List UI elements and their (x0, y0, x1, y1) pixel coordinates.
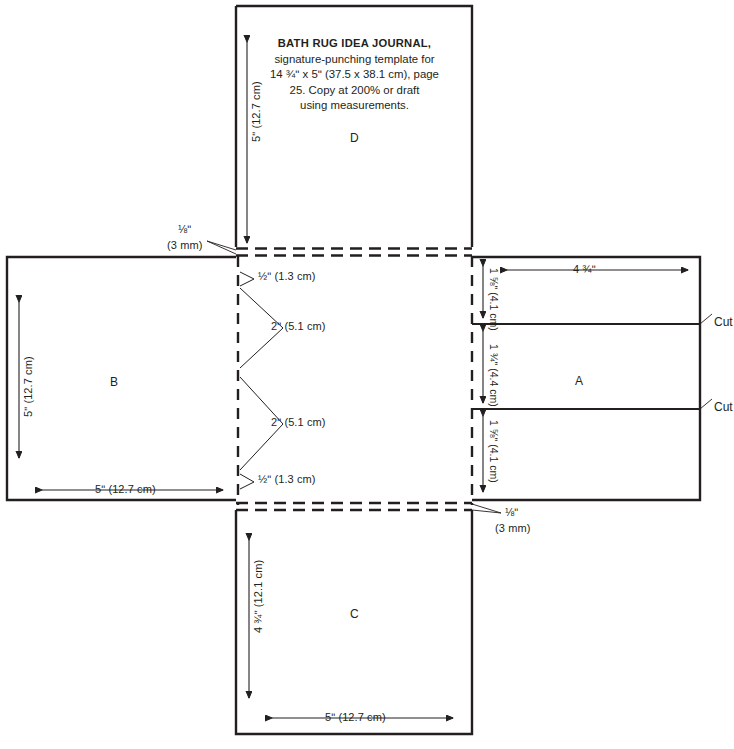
cut-leader-bottom (700, 399, 712, 409)
title-block: BATH RUG IDEA JOURNAL, signature-punchin… (252, 36, 457, 114)
panel-letter-b: B (110, 376, 118, 388)
dim-label-notch-bottom: ½ʺ (1.3 cm) (258, 474, 316, 485)
dim-label-panel-b-height: 5ʺ (12.7 cm) (23, 356, 34, 417)
callout-gap-bottom-line2: (3 mm) (495, 523, 530, 534)
zigzag-notch-bottom (240, 474, 254, 489)
dim-label-notch-top: ½ʺ (1.3 cm) (258, 271, 316, 282)
callout-gap-top-line1: ⅛ʺ (178, 224, 191, 235)
gap-callout-top-leaders (207, 241, 236, 254)
zigzag-leaders (240, 272, 283, 489)
dim-label-panel-a-seg-bottom: 1 ⅝ʺ (4.1 cm) (489, 420, 500, 483)
dim-label-panel-b-width: 5ʺ (12.7 cm) (95, 484, 156, 495)
panel-a-outline (472, 257, 700, 500)
panel-letter-c: C (350, 608, 359, 620)
callout-gap-bottom-line1: ⅛ʺ (505, 507, 518, 518)
dim-label-panel-d-height: 5ʺ (12.7 cm) (251, 81, 262, 142)
cut-label-bottom: Cut (714, 401, 733, 413)
dim-label-panel-a-width: 4 ¾ʺ (573, 264, 596, 275)
panel-letter-d: D (350, 132, 359, 144)
dim-label-panel-c-height: 4 ¾ʺ (12.1 cm) (253, 560, 264, 633)
title-line-5: using measurements. (252, 98, 457, 114)
dim-label-segment-upper: 2ʺ (5.1 cm) (271, 321, 326, 332)
cut-leader-top (700, 314, 712, 324)
title-line-3: 14 ¾ʺ x 5ʺ (37.5 x 38.1 cm), page (252, 67, 457, 83)
zigzag-notch-top (240, 272, 254, 286)
title-line-4: 25. Copy at 200% or draft (252, 83, 457, 99)
cut-label-top: Cut (714, 316, 733, 328)
panel-c-outline (236, 510, 472, 734)
title-line-2: signature-punching template for (252, 52, 457, 68)
title-line-1: BATH RUG IDEA JOURNAL, (252, 36, 457, 52)
dim-label-panel-c-width: 5ʺ (12.7 cm) (325, 712, 386, 723)
panel-b-outline (7, 257, 236, 500)
panel-letter-a: A (575, 375, 583, 387)
dim-label-panel-a-seg-mid: 1 ¾ʺ (4.4 cm) (489, 344, 500, 407)
callout-gap-top-line2: (3 mm) (167, 240, 202, 251)
template-diagram: BATH RUG IDEA JOURNAL, signature-punchin… (0, 0, 734, 749)
dim-label-panel-a-seg-top: 1 ⅝ʺ (4.1 cm) (489, 268, 500, 331)
gap-callout-bottom-leaders (472, 504, 501, 513)
dim-label-segment-lower: 2ʺ (5.1 cm) (271, 417, 326, 428)
